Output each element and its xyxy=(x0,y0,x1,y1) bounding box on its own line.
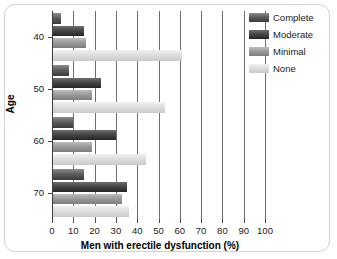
bar-moderate-age-50 xyxy=(52,78,101,89)
x-tick-label: 100 xyxy=(252,225,278,236)
y-axis-title: Age xyxy=(5,95,16,114)
bar-none-age-60 xyxy=(52,154,146,165)
legend-label: Moderate xyxy=(273,28,313,41)
y-tick-mark xyxy=(48,89,52,90)
bar-minimal-age-70 xyxy=(52,194,122,205)
x-tick-mark xyxy=(159,219,160,223)
bar-moderate-age-60 xyxy=(52,130,116,141)
x-tick-mark xyxy=(52,219,53,223)
chart-figure: 0102030405060708090100 40506070 Men with… xyxy=(0,0,337,259)
legend-label: Complete xyxy=(273,11,314,24)
bar-complete-age-40 xyxy=(52,13,61,24)
legend-swatch-moderate xyxy=(249,30,269,39)
bar-none-age-40 xyxy=(52,50,182,61)
x-tick-mark xyxy=(222,219,223,223)
gridline xyxy=(137,11,138,219)
x-axis-title: Men with erectile dysfunction (%) xyxy=(30,240,290,251)
y-tick-mark xyxy=(48,37,52,38)
x-tick-mark xyxy=(95,219,96,223)
x-tick-mark xyxy=(137,219,138,223)
y-tick-label: 60 xyxy=(24,135,44,146)
bar-moderate-age-40 xyxy=(52,26,84,37)
legend-label: Minimal xyxy=(273,45,306,58)
x-tick-mark xyxy=(244,219,245,223)
plot-area xyxy=(52,11,265,219)
y-tick-label: 70 xyxy=(24,187,44,198)
legend-item-moderate: Moderate xyxy=(249,28,329,44)
legend-swatch-none xyxy=(249,64,269,73)
bar-none-age-70 xyxy=(52,206,129,217)
y-tick-mark xyxy=(48,141,52,142)
gridline xyxy=(159,11,160,219)
gridline xyxy=(244,11,245,219)
gridline xyxy=(201,11,202,219)
bar-complete-age-50 xyxy=(52,65,69,76)
x-tick-mark xyxy=(73,219,74,223)
bar-moderate-age-70 xyxy=(52,182,127,193)
gridline xyxy=(222,11,223,219)
bar-complete-age-60 xyxy=(52,117,73,128)
x-tick-mark xyxy=(201,219,202,223)
y-axis-line xyxy=(52,11,53,219)
y-tick-mark xyxy=(48,193,52,194)
bar-minimal-age-40 xyxy=(52,38,86,49)
bar-none-age-50 xyxy=(52,102,165,113)
bar-minimal-age-50 xyxy=(52,90,92,101)
bar-minimal-age-60 xyxy=(52,142,92,153)
y-tick-label: 40 xyxy=(24,31,44,42)
y-tick-label: 50 xyxy=(24,83,44,94)
legend-swatch-minimal xyxy=(249,47,269,56)
chart-legend: CompleteModerateMinimalNone xyxy=(249,11,329,79)
x-tick-mark xyxy=(265,219,266,223)
legend-item-minimal: Minimal xyxy=(249,45,329,61)
gridline xyxy=(180,11,181,219)
legend-item-none: None xyxy=(249,62,329,78)
bar-complete-age-70 xyxy=(52,169,84,180)
legend-label: None xyxy=(273,62,296,75)
legend-item-complete: Complete xyxy=(249,11,329,27)
legend-swatch-complete xyxy=(249,13,269,22)
x-tick-mark xyxy=(116,219,117,223)
x-tick-mark xyxy=(180,219,181,223)
